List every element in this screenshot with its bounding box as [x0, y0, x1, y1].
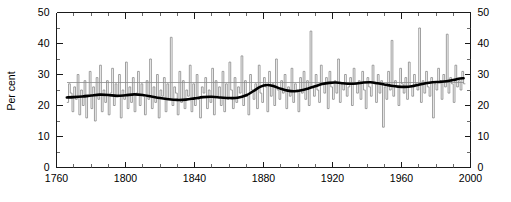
x-axis-tick-label: 2000	[459, 172, 483, 184]
y-axis-right-tick-label: 30	[478, 68, 490, 80]
y-axis-right-tick-label: 40	[478, 37, 490, 49]
y-axis-title: Per cent	[5, 71, 17, 110]
y-axis-left-tick-label: 20	[38, 99, 50, 111]
y-axis-left-tick-label: 30	[38, 68, 50, 80]
chart-container: 0010102020303040405050176018001840188019…	[0, 0, 511, 202]
x-axis-tick-label: 1960	[390, 172, 414, 184]
percent-time-series-chart: 0010102020303040405050176018001840188019…	[0, 0, 511, 202]
y-axis-right-tick-label: 10	[478, 130, 490, 142]
x-axis-tick-label: 1920	[321, 172, 345, 184]
y-axis-left-tick-label: 10	[38, 130, 50, 142]
y-axis-left-tick-label: 50	[38, 6, 50, 18]
x-axis-tick-label: 1760	[45, 172, 69, 184]
x-axis-tick-label: 1800	[114, 172, 138, 184]
x-axis-tick-label: 1840	[183, 172, 207, 184]
x-axis-tick-label: 1880	[252, 172, 276, 184]
y-axis-left-tick-label: 40	[38, 37, 50, 49]
y-axis-right-tick-label: 50	[478, 6, 490, 18]
y-axis-right-tick-label: 20	[478, 99, 490, 111]
